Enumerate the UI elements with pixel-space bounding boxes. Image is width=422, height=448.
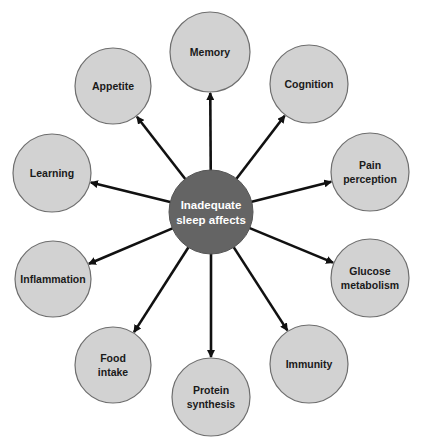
arrow-to-food-intake [134,246,189,332]
node-pain-perception: Painperception [331,133,409,211]
node-label: Inflammation [20,273,85,285]
node-immunity: Immunity [270,325,348,403]
node-label: Appetite [92,80,134,92]
node-protein-synthesis: Proteinsynthesis [172,358,250,436]
arrow-to-appetite [137,117,186,181]
node-circle [331,239,409,317]
node-circle [172,358,250,436]
node-learning: Learning [13,134,91,212]
node-label: metabolism [341,279,399,291]
node-label: Protein [193,384,229,396]
node-circle [75,327,151,403]
center-node: Inadequatesleep affects [169,170,253,254]
node-label: Pain [359,159,381,171]
node-cognition: Cognition [270,45,348,123]
center-circle [169,170,253,254]
node-label: Memory [190,46,230,58]
node-label: synthesis [187,398,236,410]
diagram-canvas: MemoryCognitionPainperceptionGlucosemeta… [0,0,422,448]
node-food-intake: Foodintake [75,327,151,403]
arrow-to-pain-perception [250,182,331,202]
arrow-to-learning [91,183,172,203]
arrow-to-immunity [233,246,288,331]
arrow-to-glucose-metabolism [248,227,333,262]
node-label: Glucose [349,265,391,277]
node-glucose-metabolism: Glucosemetabolism [331,239,409,317]
arrow-to-cognition [235,116,284,180]
node-memory: Memory [170,12,250,92]
arrow-to-inflammation [89,228,174,264]
node-label: Immunity [286,358,333,370]
sleep-effects-diagram: MemoryCognitionPainperceptionGlucosemeta… [0,0,422,448]
node-inflammation: Inflammation [15,241,91,317]
node-circle [331,133,409,211]
node-label: intake [98,366,129,378]
node-label: Inadequate [181,199,242,211]
node-label: sleep affects [176,214,246,226]
node-appetite: Appetite [75,48,151,124]
node-label: Food [100,352,126,364]
node-label: Learning [30,167,74,179]
node-label: Cognition [285,78,334,90]
node-label: perception [343,173,397,185]
